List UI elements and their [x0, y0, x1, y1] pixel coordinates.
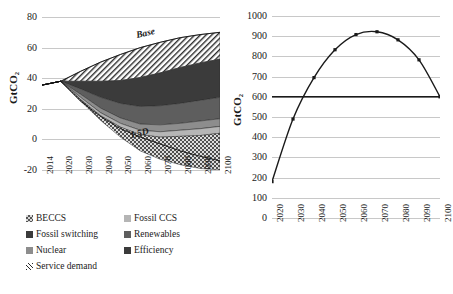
x-tick-label: 2030	[297, 204, 306, 222]
beccs-swatch-icon	[26, 215, 33, 222]
nuclear-swatch-icon	[26, 247, 33, 254]
x-tick-label: 2040	[105, 156, 114, 174]
x-tick-label: 2090	[423, 204, 432, 222]
y-tick-label: 300	[225, 152, 267, 162]
legend-item-nuclear[interactable]: Nuclear	[26, 242, 124, 258]
legend-row: Nuclear Efficiency	[26, 242, 222, 258]
data-point-marker	[396, 38, 399, 41]
data-point-marker	[375, 30, 378, 33]
y-tick-label: 80	[0, 12, 37, 22]
x-tick-label: 2040	[318, 204, 327, 222]
x-tick-label: 2020	[276, 204, 285, 222]
x-tick-label: 2080	[402, 204, 411, 222]
fossil-ccs-swatch-icon	[124, 215, 131, 222]
left-area-series	[42, 17, 220, 170]
data-point-marker	[272, 180, 274, 183]
legend-label: BECCS	[36, 213, 66, 223]
x-tick-label: 2080	[184, 156, 193, 174]
data-point-marker	[354, 33, 357, 36]
right-plot-area	[272, 16, 440, 218]
legend-item-fossil-switching[interactable]: Fossil switching	[26, 226, 124, 242]
data-point-marker	[438, 95, 440, 98]
right-chart-panel: GtCO₂ 01002003004005006007008009001000 2…	[225, 0, 450, 294]
y-tick-label: 1000	[225, 11, 267, 21]
service-demand-swatch-icon	[26, 263, 33, 270]
x-tick-label: 2030	[85, 156, 94, 174]
x-tick-label: 2070	[164, 156, 173, 174]
legend-row: BECCS Fossil CCS	[26, 210, 222, 226]
legend-label: Nuclear	[36, 245, 66, 255]
x-tick-label: 2100	[444, 204, 453, 222]
y-tick-label: -20	[0, 165, 37, 175]
legend-item-renewables[interactable]: Renewables	[124, 226, 222, 242]
y-tick-label: 100	[225, 193, 267, 203]
y-tick-label: 40	[0, 73, 37, 83]
legend-label: Renewables	[134, 229, 180, 239]
y-tick-label: 700	[225, 72, 267, 82]
data-point-marker	[291, 117, 294, 120]
legend-row: Fossil switching Renewables	[26, 226, 222, 242]
legend-label: Efficiency	[134, 245, 173, 255]
y-tick-label: 60	[0, 43, 37, 53]
cumulative-emissions-curve	[272, 31, 440, 181]
efficiency-swatch-icon	[124, 247, 131, 254]
y-tick-label: 0	[225, 213, 267, 223]
x-tick-label: 2014	[46, 156, 55, 174]
data-point-marker	[312, 76, 315, 79]
legend: BECCS Fossil CCS Fossil switching Renewa…	[26, 210, 222, 274]
x-tick-label: 2060	[144, 156, 153, 174]
x-tick-label: 2070	[381, 204, 390, 222]
x-tick-label: 2050	[339, 204, 348, 222]
y-tick-label: 600	[225, 92, 267, 102]
legend-label: Fossil CCS	[134, 213, 177, 223]
y-tick-label: 900	[225, 31, 267, 41]
y-tick-label: 20	[0, 104, 37, 114]
y-tick-label: 400	[225, 132, 267, 142]
y-tick-label: 500	[225, 112, 267, 122]
right-line-series	[272, 16, 440, 218]
legend-row-footer: Service demand	[26, 258, 222, 274]
x-tick-label: 2050	[124, 156, 133, 174]
data-point-marker	[417, 58, 420, 61]
legend-label: Fossil switching	[36, 229, 98, 239]
legend-item-fossil-ccs[interactable]: Fossil CCS	[124, 210, 222, 226]
y-tick-label: 800	[225, 51, 267, 61]
legend-item-beccs[interactable]: BECCS	[26, 210, 124, 226]
x-tick-label: 2020	[65, 156, 74, 174]
y-tick-label: 200	[225, 173, 267, 183]
x-tick-label: 2060	[360, 204, 369, 222]
fossil-switching-swatch-icon	[26, 231, 33, 238]
data-point-marker	[333, 48, 336, 51]
left-chart-panel: GtCO₂ -20020406080 201420202030204020502…	[0, 0, 225, 294]
y-tick-label: 0	[0, 134, 37, 144]
left-plot-area	[42, 17, 220, 170]
x-tick-label: 2090	[204, 156, 213, 174]
legend-item-service-demand[interactable]: Service demand	[26, 258, 124, 274]
legend-item-efficiency[interactable]: Efficiency	[124, 242, 222, 258]
renewables-swatch-icon	[124, 231, 131, 238]
legend-label: Service demand	[36, 261, 97, 271]
